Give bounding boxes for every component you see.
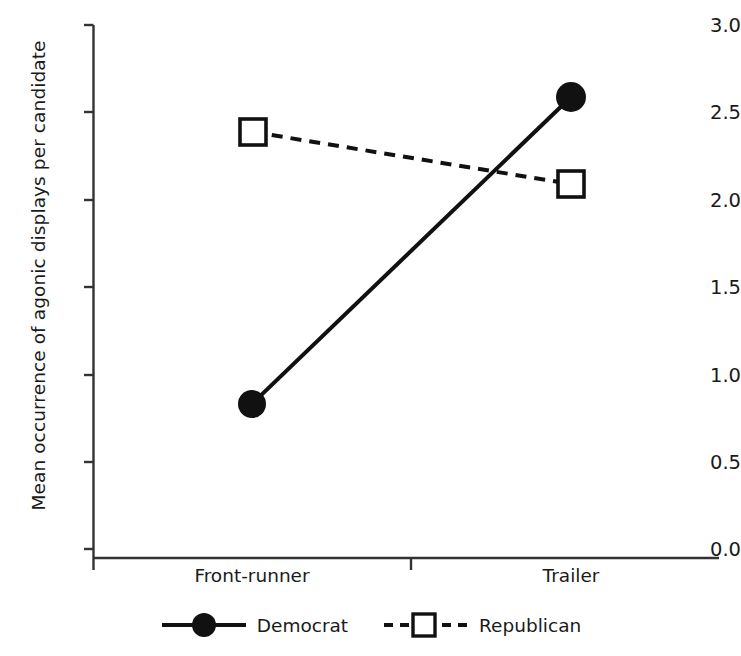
legend-entry-democrat: Democrat [160, 612, 348, 638]
legend-label-democrat: Democrat [257, 615, 348, 636]
legend-label-republican: Republican [479, 615, 581, 636]
data-point-democrat-front-runner [238, 390, 266, 418]
series-line-democrat [252, 97, 571, 404]
series-line-republican [253, 132, 571, 184]
chart-legend: Democrat Republican [0, 612, 741, 638]
legend-entry-republican: Republican [382, 612, 581, 638]
data-point-republican-front-runner [240, 119, 266, 145]
legend-marker-open-square-icon [382, 612, 470, 638]
plot-area [0, 0, 741, 610]
chart-figure: Mean occurrence of agonic displays per c… [0, 0, 741, 656]
x-tick-label-trailer: Trailer [543, 565, 600, 586]
y-axis-ticks [84, 25, 94, 549]
data-point-democrat-trailer [556, 82, 586, 112]
legend-marker-filled-circle-icon [160, 612, 248, 638]
x-tick-label-front-runner: Front-runner [194, 565, 309, 586]
data-point-republican-trailer [558, 171, 584, 197]
